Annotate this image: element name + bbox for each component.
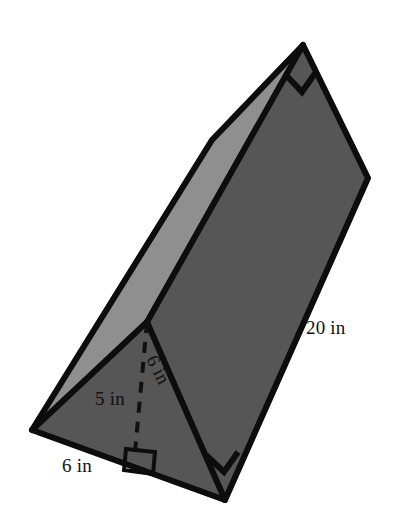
triangular-prism-figure [0, 0, 399, 524]
diagram-canvas: 20 in 6 in 5 in 6 in [0, 0, 399, 524]
length-label: 20 in [306, 318, 346, 337]
base-label: 6 in [62, 456, 92, 475]
height-label: 5 in [95, 389, 125, 408]
